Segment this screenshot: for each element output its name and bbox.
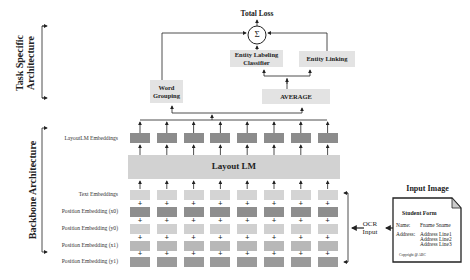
ocr-line: OCR xyxy=(356,220,384,228)
name-value: Fname Sname xyxy=(420,222,451,228)
word-grouping-line: Grouping xyxy=(153,92,180,100)
layoutlm-embedding-token xyxy=(157,133,177,143)
plus-icon: + xyxy=(190,200,198,208)
entity-linking-box: Entity Linking xyxy=(299,51,355,67)
average-box: AVERAGE xyxy=(262,89,330,104)
input-row-label: Position Embedding (x0) xyxy=(18,208,118,214)
plus-icon: + xyxy=(163,250,171,258)
layoutlm-embedding-token xyxy=(210,133,230,143)
input-row-label: Position Embedding (x1) xyxy=(18,242,118,248)
plus-icon: + xyxy=(136,200,144,208)
plus-icon: + xyxy=(216,217,224,225)
layoutlm-embedding-token xyxy=(318,133,338,143)
ocr-line: Input xyxy=(356,228,384,236)
word-grouping-line: Word xyxy=(159,84,175,92)
input-embedding-token xyxy=(210,257,230,267)
layoutlm-embeddings-label: LayoutLM Embeddings xyxy=(18,135,118,141)
input-embedding-token xyxy=(318,257,338,267)
entity-labeling-line: Classifier xyxy=(243,59,269,67)
plus-icon: + xyxy=(136,250,144,258)
name-label: Name: xyxy=(396,222,410,228)
plus-icon: + xyxy=(216,250,224,258)
word-grouping-box: Word Grouping xyxy=(150,80,183,103)
address-line-3: Address Line3 xyxy=(420,241,452,247)
bracket-label-line: Architecture xyxy=(25,28,36,98)
layoutlm-embedding-token xyxy=(184,133,204,143)
bracket-label-line: Task Specific xyxy=(14,28,25,98)
plus-icon: + xyxy=(270,250,278,258)
layoutlm-embedding-token xyxy=(264,133,284,143)
input-embedding-token xyxy=(157,257,177,267)
plus-icon: + xyxy=(190,234,198,242)
layout-lm-model-box: Layout LM xyxy=(128,155,340,179)
input-row-label: Position Embedding (y0) xyxy=(18,225,118,231)
plus-icon: + xyxy=(324,234,332,242)
plus-icon: + xyxy=(270,217,278,225)
input-embedding-token xyxy=(291,257,311,267)
form-footer: Copyright @ ABC xyxy=(399,252,426,258)
plus-icon: + xyxy=(270,200,278,208)
plus-icon: + xyxy=(243,234,251,242)
plus-icon: + xyxy=(190,217,198,225)
plus-icon: + xyxy=(163,200,171,208)
plus-icon: + xyxy=(136,234,144,242)
plus-icon: + xyxy=(163,234,171,242)
layoutlm-embedding-token xyxy=(130,133,150,143)
plus-icon: + xyxy=(297,250,305,258)
plus-icon: + xyxy=(324,200,332,208)
address-label: Address: xyxy=(396,231,415,237)
plus-icon: + xyxy=(243,250,251,258)
plus-icon: + xyxy=(136,217,144,225)
total-loss-label: Total Loss xyxy=(232,9,282,18)
plus-icon: + xyxy=(270,234,278,242)
plus-icon: + xyxy=(163,217,171,225)
input-row-label: Text Embeddings xyxy=(18,191,118,197)
plus-icon: + xyxy=(297,234,305,242)
entity-labeling-line: Entity Labeling xyxy=(235,51,279,59)
plus-icon: + xyxy=(243,217,251,225)
sum-icon: Σ xyxy=(250,29,264,40)
plus-icon: + xyxy=(216,200,224,208)
plus-icon: + xyxy=(243,200,251,208)
input-embedding-token xyxy=(184,257,204,267)
input-row-label: Position Embedding (y1) xyxy=(18,258,118,264)
input-embedding-token xyxy=(130,257,150,267)
task-specific-architecture-label: Task Specific Architecture xyxy=(14,28,36,98)
entity-labeling-classifier-box: Entity Labeling Classifier xyxy=(230,50,283,67)
input-image-title: Input Image xyxy=(390,184,465,193)
form-title: Student Form xyxy=(402,210,437,216)
input-embedding-token xyxy=(264,257,284,267)
plus-icon: + xyxy=(324,217,332,225)
layoutlm-embedding-token xyxy=(291,133,311,143)
plus-icon: + xyxy=(216,234,224,242)
plus-icon: + xyxy=(190,250,198,258)
layoutlm-embedding-token xyxy=(237,133,257,143)
ocr-input-label: OCR Input xyxy=(356,220,384,236)
plus-icon: + xyxy=(297,200,305,208)
plus-icon: + xyxy=(297,217,305,225)
input-embedding-token xyxy=(237,257,257,267)
plus-icon: + xyxy=(324,250,332,258)
